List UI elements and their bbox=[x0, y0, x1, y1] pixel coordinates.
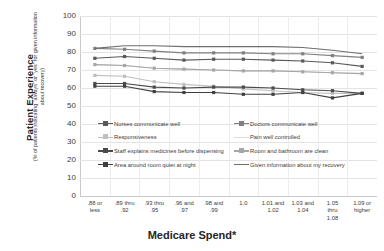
x-axis-tick-label-line: .92 bbox=[110, 207, 140, 214]
legend-item-label: Given information about my recovery bbox=[250, 162, 345, 168]
legend-item[interactable]: Staff explains medicines before dispensi… bbox=[98, 144, 234, 158]
x-axis-tick-label-line: 1.0 bbox=[229, 200, 259, 207]
series-marker bbox=[301, 59, 304, 62]
series-marker bbox=[123, 64, 126, 67]
x-axis-tick-label-line: 1.08 bbox=[318, 215, 348, 222]
series-marker bbox=[331, 61, 334, 64]
series-marker bbox=[153, 90, 156, 93]
legend-swatch-icon bbox=[98, 133, 113, 141]
chart-root: Patient Experience (% of patients indica… bbox=[0, 0, 384, 251]
series-marker bbox=[182, 91, 185, 94]
series-marker bbox=[153, 86, 156, 89]
x-axis-tick-label-line: .93 thru bbox=[139, 200, 169, 207]
series-marker bbox=[301, 91, 304, 94]
y-axis-tick-label: 10 bbox=[52, 174, 76, 182]
legend-item[interactable]: Pain well controlled bbox=[234, 131, 370, 145]
series-marker bbox=[271, 93, 274, 96]
series-marker bbox=[301, 70, 304, 73]
x-axis-tick-label-line: .95 bbox=[139, 207, 169, 214]
series-marker bbox=[361, 92, 364, 95]
series-line bbox=[95, 57, 362, 67]
legend-swatch-icon bbox=[234, 133, 249, 141]
series-marker bbox=[242, 51, 245, 54]
x-axis-tick-label-line: 1.01 and bbox=[258, 200, 288, 207]
series-marker bbox=[242, 58, 245, 61]
legend-square-marker-icon bbox=[103, 134, 108, 139]
legend-item[interactable]: Given information about my recovery bbox=[234, 158, 370, 172]
x-axis-tick-label-line: .88 or bbox=[80, 200, 110, 207]
legend-swatch-icon bbox=[98, 161, 113, 169]
legend-item[interactable]: Doctors communicate well bbox=[234, 117, 370, 131]
legend-swatch-icon bbox=[234, 161, 249, 169]
legend-swatch-icon bbox=[98, 147, 113, 155]
x-axis-tick-label-line: less bbox=[80, 207, 110, 214]
legend-item-label: Doctors communicate well bbox=[250, 121, 318, 127]
y-axis-tick-label: 100 bbox=[52, 12, 76, 20]
series-marker bbox=[212, 58, 215, 61]
y-axis-tick-label: 0 bbox=[52, 192, 76, 200]
series-marker bbox=[242, 69, 245, 72]
x-axis-tick-label-line: .89 thru bbox=[110, 200, 140, 207]
series-marker bbox=[153, 50, 156, 53]
legend-line-icon bbox=[234, 137, 249, 138]
series-marker bbox=[93, 74, 96, 77]
series-marker bbox=[212, 68, 215, 71]
legend-item-label: Pain well controlled bbox=[250, 134, 300, 140]
x-axis-tick-label-line: thru bbox=[318, 207, 348, 214]
legend-item[interactable]: Nurses communicate well bbox=[98, 117, 234, 131]
y-axis-tick-label: 80 bbox=[52, 48, 76, 56]
series-marker bbox=[153, 80, 156, 83]
series-marker bbox=[212, 51, 215, 54]
legend-item[interactable]: Area around room quiet at night bbox=[98, 158, 234, 172]
legend-item-label: Responsiveness bbox=[114, 134, 157, 140]
series-marker bbox=[182, 51, 185, 54]
legend-square-marker-icon bbox=[103, 121, 108, 126]
y-axis-tick-label: 60 bbox=[52, 84, 76, 92]
chart-legend: Nurses communicate wellDoctors communica… bbox=[98, 117, 370, 171]
legend-line-icon bbox=[234, 164, 249, 165]
y-axis-tick-label: 70 bbox=[52, 66, 76, 74]
y-axis-tick-label: 90 bbox=[52, 30, 76, 38]
series-marker bbox=[242, 86, 245, 89]
series-marker bbox=[182, 83, 185, 86]
series-marker bbox=[153, 67, 156, 70]
x-axis-tick-label-line: 1.02 bbox=[258, 207, 288, 214]
gridline-horizontal bbox=[80, 196, 377, 197]
legend-square-marker-icon bbox=[103, 148, 108, 153]
y-axis-tick-labels: 1009080706050403020100 bbox=[52, 0, 76, 205]
series-marker bbox=[271, 86, 274, 89]
x-axis-tick-label-line: .97 bbox=[169, 207, 199, 214]
y-axis-tick-label: 50 bbox=[52, 102, 76, 110]
series-marker bbox=[93, 85, 96, 88]
series-marker bbox=[242, 93, 245, 96]
series-marker bbox=[123, 75, 126, 78]
legend-swatch-icon bbox=[234, 147, 249, 155]
legend-item-label: Staff explains medicines before dispensi… bbox=[114, 148, 224, 154]
series-marker bbox=[123, 48, 126, 51]
series-marker bbox=[271, 59, 274, 62]
y-axis-tick-label: 20 bbox=[52, 156, 76, 164]
y-axis-tick-label: 30 bbox=[52, 138, 76, 146]
legend-item-label: Room and bathroom are clean bbox=[250, 148, 328, 154]
series-marker bbox=[123, 85, 126, 88]
series-marker bbox=[331, 54, 334, 57]
series-marker bbox=[361, 56, 364, 59]
legend-swatch-icon bbox=[98, 120, 113, 128]
legend-square-marker-icon bbox=[239, 121, 244, 126]
series-marker bbox=[361, 65, 364, 68]
series-marker bbox=[123, 55, 126, 58]
x-axis-tick-label-line: .96 and bbox=[169, 200, 199, 207]
series-marker bbox=[331, 71, 334, 74]
series-marker bbox=[182, 68, 185, 71]
series-marker bbox=[271, 69, 274, 72]
series-marker bbox=[212, 91, 215, 94]
y-axis-tick-label: 40 bbox=[52, 120, 76, 128]
x-axis-title: Medicare Spend* bbox=[0, 229, 384, 241]
series-marker bbox=[93, 63, 96, 66]
y-axis-subtitle: (% of patients indicating “always” or “y… bbox=[32, 12, 45, 162]
x-axis-tick-label-line: 1.09 or bbox=[347, 200, 377, 207]
legend-swatch-icon bbox=[234, 120, 249, 128]
x-axis-tick-label-line: higher bbox=[347, 207, 377, 214]
legend-item[interactable]: Room and bathroom are clean bbox=[234, 144, 370, 158]
legend-item[interactable]: Responsiveness bbox=[98, 131, 234, 145]
